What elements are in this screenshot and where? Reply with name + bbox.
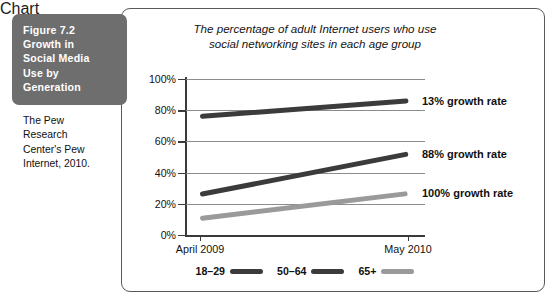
legend-label-0: 18–29: [196, 265, 225, 277]
annotation-50-64: 88% growth rate: [422, 148, 507, 160]
figure-title-line-3: Use by: [23, 66, 117, 80]
figure-title-box: Figure 7.2Growth inSocial MediaUse byGen…: [12, 14, 127, 105]
chart-title-line-0: The percentage of adult Internet users w…: [150, 22, 480, 37]
legend-item-50-64[interactable]: 50–64: [277, 265, 344, 277]
figure-root: Figure 7.2Growth inSocial MediaUse byGen…: [0, 0, 557, 304]
legend-item-65+[interactable]: 65+: [358, 265, 414, 277]
figure-title-line-4: Generation: [23, 80, 117, 94]
y-tick-20: [178, 204, 186, 205]
figure-source-note: The PewResearchCenter's PewInternet, 201…: [23, 114, 127, 172]
chart-title: The percentage of adult Internet users w…: [150, 22, 480, 51]
legend-item-18-29[interactable]: 18–29: [196, 265, 263, 277]
figure-title-line-1: Growth in: [23, 37, 117, 51]
legend-swatch-0: [230, 269, 263, 274]
annotation-18-29: 13% growth rate: [422, 95, 507, 107]
y-tick-label-40: 40%: [136, 167, 176, 179]
y-tick-label-0: 0%: [136, 229, 176, 241]
figure-title-line-0: Figure 7.2: [23, 23, 117, 37]
figure-source-line-1: Research: [23, 128, 127, 142]
gridline-60: [185, 141, 425, 142]
y-axis-tick-labels: 0%20%40%60%80%100%: [131, 0, 176, 304]
y-tick-label-80: 80%: [136, 104, 176, 116]
x-tick-label-1: May 2010: [384, 243, 431, 255]
legend-swatch-2: [381, 269, 414, 274]
x-tick-1: [408, 235, 409, 241]
y-tick-label-60: 60%: [136, 135, 176, 147]
y-tick-label-100: 100%: [136, 73, 176, 85]
figure-source-line-2: Center's Pew: [23, 143, 127, 157]
y-axis: [185, 77, 187, 237]
figure-source-line-3: Internet, 2010.: [23, 157, 127, 171]
x-tick-0: [200, 235, 201, 241]
y-tick-label-20: 20%: [136, 198, 176, 210]
figure-source-line-0: The Pew: [23, 114, 127, 128]
y-tick-100: [178, 79, 186, 80]
x-axis: [185, 235, 425, 237]
chart-legend: 18–2950–6465+: [185, 265, 425, 277]
annotation-65+: 100% growth rate: [422, 187, 513, 199]
y-tick-60: [178, 141, 186, 142]
y-tick-80: [178, 110, 186, 111]
chart-title-line-1: social networking sites in each age grou…: [150, 37, 480, 52]
legend-label-1: 50–64: [277, 265, 306, 277]
y-tick-40: [178, 173, 186, 174]
x-tick-label-0: April 2009: [176, 243, 225, 255]
gridline-100: [185, 79, 425, 80]
legend-swatch-1: [311, 269, 344, 274]
y-tick-0: [178, 235, 186, 236]
figure-title-line-2: Social Media: [23, 51, 117, 65]
legend-label-2: 65+: [358, 265, 376, 277]
